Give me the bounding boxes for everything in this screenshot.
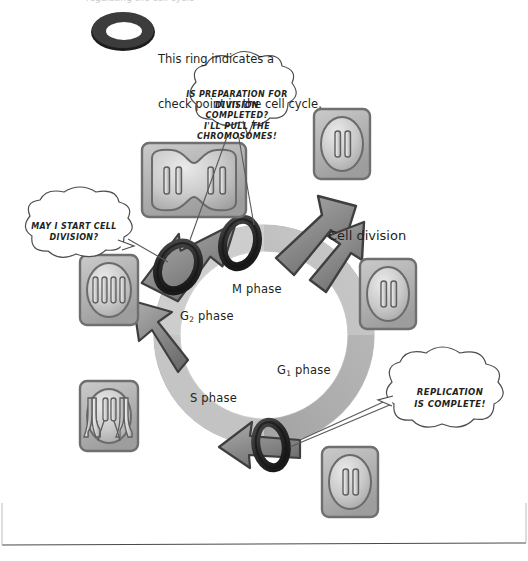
- label-g1-base: G: [277, 363, 286, 377]
- cell-cycle-figure: regulating the cell cycle: [0, 0, 528, 561]
- page-bottom-rule: [2, 503, 526, 545]
- legend-checkpoint-ring-icon: [91, 12, 155, 51]
- g2-cell-four-chromosomes: [80, 255, 138, 325]
- label-g2-phase: G2 phase: [180, 309, 234, 324]
- daughter-cell-top: [314, 109, 370, 179]
- daughter-cell-bottom: [322, 447, 378, 517]
- label-g1-phase: G1 phase: [277, 363, 331, 378]
- label-g2-base: G: [180, 309, 189, 323]
- legend-line-1: This ring indicates a: [158, 52, 322, 67]
- label-g1-suffix: phase: [291, 363, 331, 377]
- cell-telophase: [142, 143, 246, 217]
- s-phase-cell-replication-forks: [80, 381, 138, 451]
- bubble-text-m-checkpoint: IS PREPARATION FOR DIVISION COMPLETED? I…: [184, 90, 290, 143]
- bubble-text-g2-checkpoint: REPLICATION IS COMPLETE!: [398, 387, 502, 410]
- bubble-text-g1-checkpoint: MAY I START CELL DIVISION?: [22, 222, 126, 243]
- label-s-phase: S phase: [190, 391, 237, 405]
- label-g2-suffix: phase: [194, 309, 234, 323]
- label-cell-division: Cell division: [328, 228, 406, 243]
- g1-cell-right: [360, 259, 416, 329]
- label-m-phase: M phase: [232, 282, 282, 296]
